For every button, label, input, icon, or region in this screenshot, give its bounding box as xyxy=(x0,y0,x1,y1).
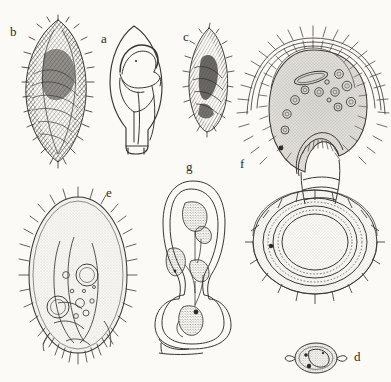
panel-a xyxy=(98,20,174,160)
panel-label-a: a xyxy=(101,31,107,47)
panel-label-d: d xyxy=(354,349,361,365)
panel-g-drawing xyxy=(145,175,245,355)
panel-g xyxy=(145,175,245,355)
panel-f-drawing xyxy=(243,14,391,314)
panel-e-drawing xyxy=(14,183,142,368)
panel-d-drawing xyxy=(283,338,349,378)
panel-b xyxy=(14,14,98,169)
illustration-plate: b a xyxy=(0,0,391,382)
panel-label-f: f xyxy=(240,156,244,172)
panel-label-g: g xyxy=(186,159,193,175)
panel-f xyxy=(243,14,391,314)
panel-a-drawing xyxy=(98,20,174,160)
panel-label-b: b xyxy=(10,24,17,40)
panel-e xyxy=(14,183,142,368)
panel-label-e: e xyxy=(106,185,112,201)
panel-b-drawing xyxy=(14,14,98,169)
panel-label-c: c xyxy=(183,29,189,45)
panel-d xyxy=(283,338,349,378)
